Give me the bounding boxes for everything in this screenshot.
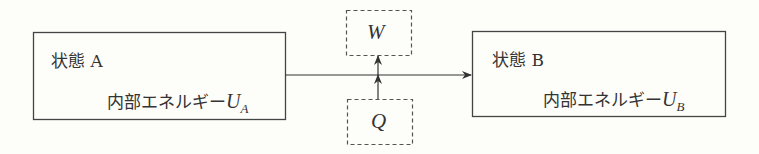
state-a-energy-subscript: A <box>240 101 248 116</box>
state-b-energy: 内部エネルギーUB <box>543 86 684 111</box>
state-a-energy-symbol: U <box>226 90 240 112</box>
state-b-title: 状態 B <box>492 46 544 71</box>
state-b-energy-label: 内部エネルギー <box>543 90 662 110</box>
state-b-energy-subscript: B <box>676 99 684 114</box>
state-a-title: 状態 A <box>51 47 103 72</box>
heat-symbol: Q <box>371 109 386 134</box>
state-a-energy: 内部エネルギーUA <box>107 88 248 113</box>
work-symbol: W <box>367 20 385 45</box>
state-a-energy-label: 内部エネルギー <box>107 92 226 112</box>
state-b-energy-symbol: U <box>662 88 676 110</box>
